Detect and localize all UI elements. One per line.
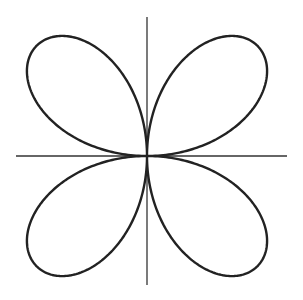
rose-curve-plot	[0, 0, 303, 300]
polar-rose-figure	[0, 0, 303, 300]
